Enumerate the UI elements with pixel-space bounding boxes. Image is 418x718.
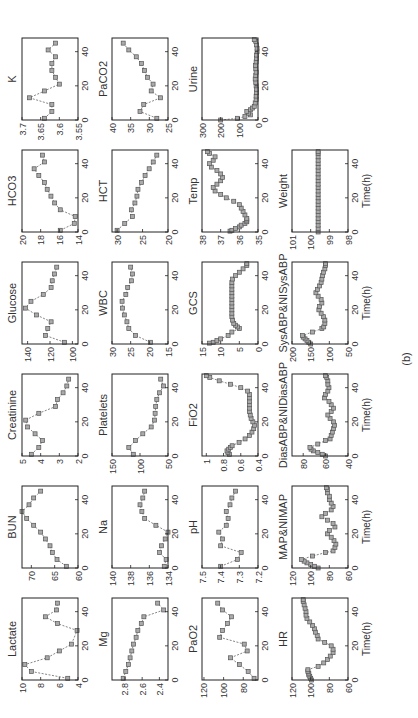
x-tick-label: 20 bbox=[260, 81, 270, 91]
y-tick-label: 2.8 bbox=[120, 683, 130, 696]
panel-title: PaCO2 bbox=[97, 61, 109, 97]
axes-box bbox=[112, 598, 168, 680]
x-tick-label: 20 bbox=[170, 529, 180, 539]
x-tick-label: 0 bbox=[170, 565, 180, 570]
y-tick-label: 138 bbox=[126, 571, 136, 586]
panel-title: Na bbox=[97, 519, 109, 534]
y-tick-label: 300 bbox=[198, 123, 208, 138]
x-tick-label: 0 bbox=[350, 453, 360, 458]
y-tick-label: 37 bbox=[216, 235, 226, 245]
x-tick-label: 0 bbox=[260, 117, 270, 122]
x-tick-label: 20 bbox=[260, 305, 270, 315]
panel-title: DiasABP&NIDiasABP bbox=[277, 362, 289, 468]
panel-mg: Mg2.42.62.802040 bbox=[97, 598, 180, 696]
y-tick-label: 7.5 bbox=[198, 571, 208, 584]
y-tick-label: 120 bbox=[199, 683, 209, 698]
y-tick-label: 4 bbox=[36, 459, 46, 464]
x-tick-label: 40 bbox=[170, 495, 180, 505]
panel-title: K bbox=[6, 75, 18, 83]
y-tick-label: 30 bbox=[113, 235, 123, 245]
y-tick-label: 100 bbox=[136, 459, 146, 474]
y-tick-label: 30 bbox=[145, 123, 155, 133]
panel-hr: HR608010012002040Time(h) bbox=[277, 598, 372, 698]
panel-creatinine: Creatinine234502040 bbox=[6, 374, 90, 464]
x-tick-label: 0 bbox=[170, 341, 180, 346]
y-tick-label: 14 bbox=[74, 235, 84, 245]
y-tick-label: 100 bbox=[235, 123, 245, 138]
x-tick-label: 0 bbox=[80, 453, 90, 458]
y-tick-label: 20 bbox=[18, 235, 28, 245]
y-tick-label: 200 bbox=[288, 347, 298, 362]
panel-title: GCS bbox=[187, 291, 199, 315]
y-tick-label: 140 bbox=[23, 347, 33, 362]
axes-box bbox=[112, 374, 168, 456]
x-tick-label: 40 bbox=[170, 47, 180, 57]
x-tick-label: 0 bbox=[260, 341, 270, 346]
x-tick-label: 40 bbox=[350, 383, 360, 393]
x-tick-label: 40 bbox=[170, 271, 180, 281]
x-tick-label: 20 bbox=[80, 417, 90, 427]
x-tick-label: 40 bbox=[260, 159, 270, 169]
y-tick-label: 30 bbox=[108, 347, 118, 357]
y-tick-label: 2.4 bbox=[155, 683, 165, 696]
y-tick-label: 8 bbox=[36, 683, 46, 688]
panel-title: PaO2 bbox=[187, 625, 199, 653]
y-tick-label: 136 bbox=[145, 571, 155, 586]
x-tick-label: 20 bbox=[260, 529, 270, 539]
panel-title: Weight bbox=[277, 174, 289, 208]
y-tick-label: 38 bbox=[198, 235, 208, 245]
x-tick-label: 20 bbox=[260, 641, 270, 651]
panel-fio2: FiO20.40.60.8102040 bbox=[187, 374, 270, 472]
x-axis-label: Time(h) bbox=[361, 622, 372, 656]
x-tick-label: 0 bbox=[350, 341, 360, 346]
y-tick-label: 10 bbox=[18, 683, 28, 693]
y-tick-label: 200 bbox=[216, 123, 226, 138]
axes-box bbox=[22, 150, 78, 232]
y-tick-label: 80 bbox=[239, 683, 249, 693]
y-tick-label: 3.55 bbox=[74, 123, 84, 141]
y-tick-label: 4 bbox=[74, 683, 84, 688]
panel-title: BUN bbox=[6, 515, 18, 538]
x-tick-label: 20 bbox=[170, 81, 180, 91]
y-tick-label: 120 bbox=[288, 571, 298, 586]
x-axis-label: Time(h) bbox=[361, 286, 372, 320]
y-tick-label: 0.8 bbox=[219, 459, 229, 472]
y-tick-label: 50 bbox=[344, 347, 354, 357]
x-tick-label: 0 bbox=[170, 677, 180, 682]
x-tick-label: 0 bbox=[80, 341, 90, 346]
x-tick-label: 20 bbox=[170, 193, 180, 203]
x-tick-label: 20 bbox=[80, 305, 90, 315]
x-tick-label: 40 bbox=[350, 495, 360, 505]
panel-title: Temp bbox=[187, 178, 199, 205]
y-tick-label: 2.6 bbox=[138, 683, 148, 696]
panel-paco2: PaCO22530354002040 bbox=[97, 38, 180, 133]
x-tick-label: 40 bbox=[260, 383, 270, 393]
x-tick-label: 40 bbox=[260, 495, 270, 505]
panel-title: HCO3 bbox=[6, 176, 18, 207]
y-tick-label: 120 bbox=[288, 683, 298, 698]
y-tick-label: 16 bbox=[55, 235, 65, 245]
panel-glucose: Glucose10012014002040 bbox=[6, 262, 90, 362]
panel-lactate: Lactate4681002040 bbox=[6, 598, 90, 693]
x-tick-label: 20 bbox=[350, 193, 360, 203]
y-tick-label: 1 bbox=[202, 459, 212, 464]
chart-svg: Lactate4681002040BUN60657002040Creatinin… bbox=[0, 0, 418, 718]
figure-caption: (b) bbox=[400, 352, 412, 365]
y-tick-label: 70 bbox=[27, 571, 37, 581]
y-tick-label: 25 bbox=[138, 235, 148, 245]
panel-title: Platelets bbox=[97, 393, 109, 436]
x-tick-label: 20 bbox=[80, 641, 90, 651]
panel-gcs: GCS05101502040 bbox=[187, 262, 270, 357]
axes-box bbox=[22, 486, 78, 568]
x-tick-label: 20 bbox=[80, 193, 90, 203]
x-tick-label: 40 bbox=[170, 607, 180, 617]
axes-box bbox=[202, 598, 258, 680]
panel-title: SysABP&NISysABP bbox=[277, 253, 289, 352]
y-tick-label: 0.6 bbox=[236, 459, 246, 472]
x-tick-label: 20 bbox=[170, 417, 180, 427]
y-tick-label: 5 bbox=[235, 347, 245, 352]
x-tick-label: 40 bbox=[80, 47, 90, 57]
x-tick-label: 0 bbox=[260, 229, 270, 234]
y-tick-label: 60 bbox=[344, 571, 354, 581]
x-tick-label: 40 bbox=[80, 271, 90, 281]
